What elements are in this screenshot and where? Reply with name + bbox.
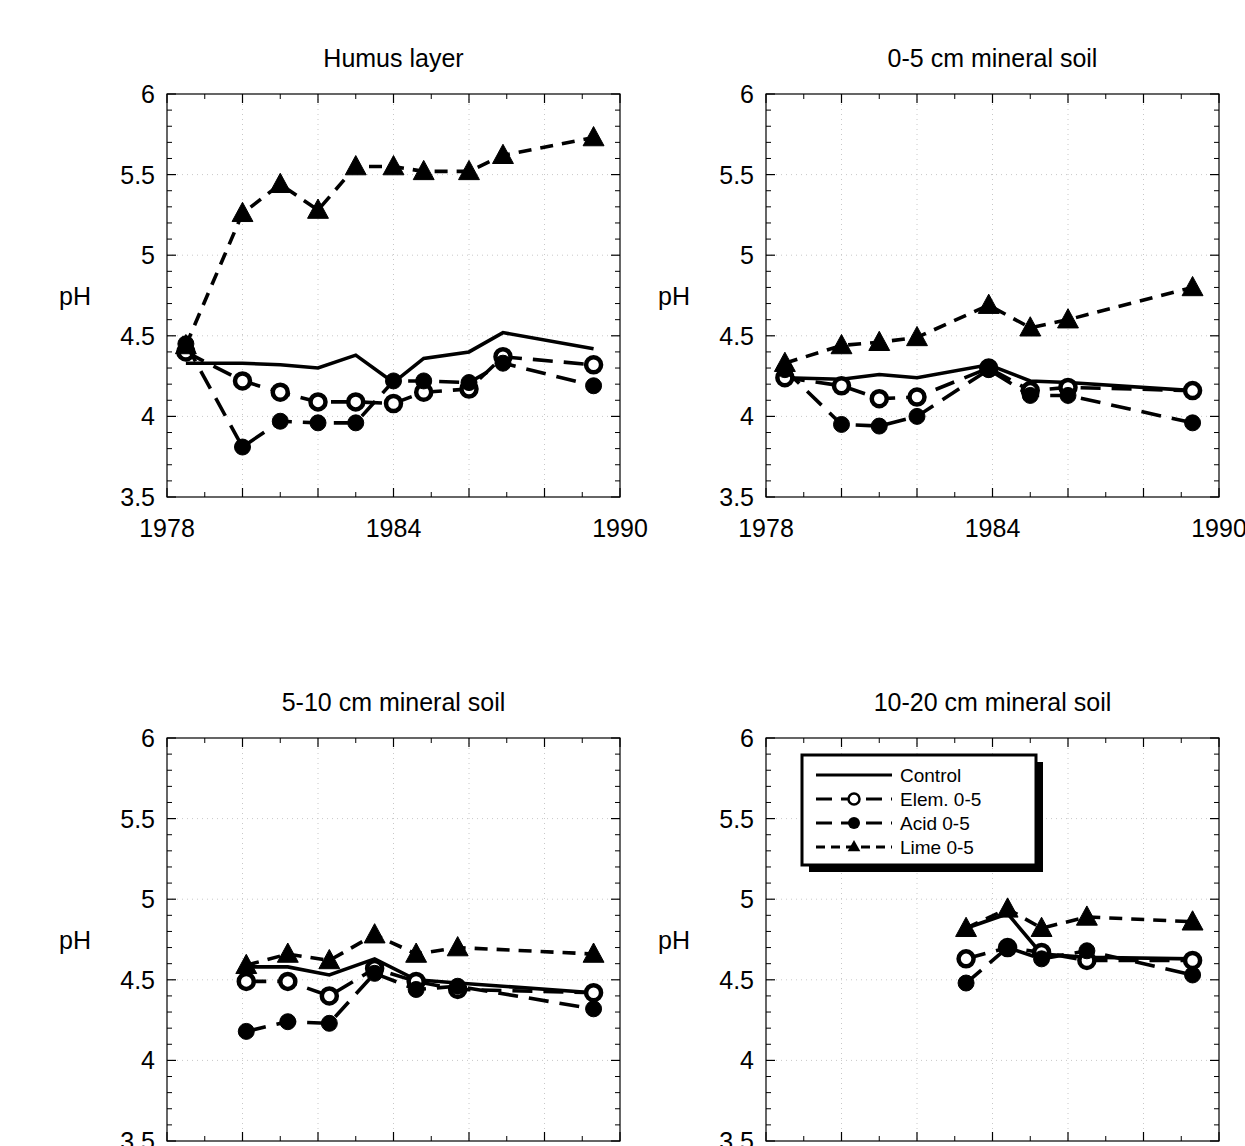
y-axis-title: pH xyxy=(658,282,690,310)
data-point-filled-triangle xyxy=(1058,309,1079,328)
plot-area: 3.544.555.56pH197819841990 xyxy=(0,0,1245,1146)
series-line-elem-0-5 xyxy=(246,969,593,996)
data-point-filled-triangle xyxy=(406,943,427,962)
data-point-filled-triangle xyxy=(270,173,291,192)
data-point-open-circle xyxy=(1185,953,1200,968)
data-point-filled-circle xyxy=(871,418,887,434)
y-tick-label: 4.5 xyxy=(719,322,754,350)
y-tick-label: 6 xyxy=(141,80,155,108)
panel-title: 5-10 cm mineral soil xyxy=(167,688,620,717)
data-point-filled-circle xyxy=(1060,387,1076,403)
axis-ticks xyxy=(766,94,1219,497)
data-point-filled-circle xyxy=(461,375,477,391)
data-point-filled-triangle xyxy=(364,924,385,943)
data-point-filled-triangle xyxy=(232,202,253,221)
gridlines xyxy=(167,738,620,1141)
y-tick-label: 4 xyxy=(141,1046,155,1074)
series-line-acid-0-5 xyxy=(785,370,1193,426)
data-point-filled-triangle xyxy=(907,326,928,345)
data-point-open-circle xyxy=(311,394,326,409)
data-point-open-circle xyxy=(959,951,974,966)
data-point-filled-triangle xyxy=(1182,276,1203,295)
plot-area: 3.544.555.56pH197819841990 xyxy=(0,0,1245,1146)
x-tick-label: 1978 xyxy=(139,514,195,542)
data-point-filled-triangle xyxy=(383,156,404,175)
y-tick-label: 5 xyxy=(141,885,155,913)
data-point-open-circle xyxy=(834,378,849,393)
figure-root: Humus layer3.544.555.56pH1978198419900-5… xyxy=(0,0,1245,1146)
data-point-filled-circle xyxy=(777,362,793,378)
data-point-filled-circle xyxy=(1185,415,1201,431)
chart-panel-4: 10-20 cm mineral soil3.544.555.56pHContr… xyxy=(0,0,1245,1146)
series-line-acid-0-5 xyxy=(246,973,593,1031)
data-point-filled-circle xyxy=(450,978,466,994)
legend-label: Lime 0-5 xyxy=(900,837,974,858)
x-tick-labels: 197819841990 xyxy=(738,514,1245,542)
panel-title: 10-20 cm mineral soil xyxy=(766,688,1219,717)
chart-panel-2: 0-5 cm mineral soil3.544.555.56pH1978198… xyxy=(0,0,1245,1146)
data-point-filled-circle xyxy=(1034,951,1050,967)
series-line-elem-0-5 xyxy=(186,352,594,404)
legend-label: Acid 0-5 xyxy=(900,813,970,834)
data-point-open-circle xyxy=(910,390,925,405)
y-tick-label: 4.5 xyxy=(120,322,155,350)
data-point-filled-circle xyxy=(416,373,432,389)
y-tick-labels: 3.544.555.56 xyxy=(719,80,754,511)
axis-ticks xyxy=(766,738,1219,1141)
legend-marker-open-circle xyxy=(849,794,860,805)
series-line-lime-0-5 xyxy=(186,138,594,346)
series-line-lime-0-5 xyxy=(785,287,1193,363)
y-tick-label: 6 xyxy=(740,80,754,108)
data-point-filled-triangle xyxy=(1020,317,1041,336)
series-line-control xyxy=(966,914,1192,959)
data-point-open-circle xyxy=(586,357,601,372)
data-point-filled-circle xyxy=(1000,940,1016,956)
series-line-acid-0-5 xyxy=(186,344,594,447)
data-point-filled-triangle xyxy=(1076,906,1097,925)
data-point-filled-circle xyxy=(321,1015,337,1031)
data-point-filled-circle xyxy=(1079,943,1095,959)
data-point-open-circle xyxy=(450,982,465,997)
panel-title: Humus layer xyxy=(167,44,620,73)
data-point-filled-circle xyxy=(408,981,424,997)
panel-title: 0-5 cm mineral soil xyxy=(766,44,1219,73)
data-point-filled-circle xyxy=(367,965,383,981)
y-tick-label: 4.5 xyxy=(719,966,754,994)
series-line-acid-0-5 xyxy=(966,948,1192,983)
series-line-control xyxy=(246,959,593,993)
data-point-open-circle xyxy=(235,373,250,388)
gridlines xyxy=(167,94,620,497)
data-point-open-circle xyxy=(322,988,337,1003)
series-group xyxy=(956,898,1203,991)
gridlines xyxy=(766,738,1219,1141)
legend: ControlElem. 0-5Acid 0-5Lime 0-5 xyxy=(802,755,1043,872)
data-point-open-circle xyxy=(1000,940,1015,955)
y-axis-title: pH xyxy=(658,926,690,954)
data-point-open-circle xyxy=(1061,380,1076,395)
data-point-filled-triangle xyxy=(277,943,298,962)
data-point-filled-triangle xyxy=(493,144,514,163)
chart-panel-3: 5-10 cm mineral soil3.544.555.56pH xyxy=(0,0,1245,1146)
data-point-filled-circle xyxy=(348,415,364,431)
y-axis-title: pH xyxy=(59,926,91,954)
x-tick-label: 1990 xyxy=(1191,514,1245,542)
plot-frame xyxy=(766,738,1219,1141)
y-tick-label: 3.5 xyxy=(719,483,754,511)
legend-marker-filled-circle xyxy=(848,817,860,829)
data-point-filled-circle xyxy=(586,378,602,394)
legend-label: Control xyxy=(900,765,961,786)
data-point-filled-circle xyxy=(958,975,974,991)
data-point-filled-circle xyxy=(981,362,997,378)
y-tick-labels: 3.544.555.56 xyxy=(719,724,754,1146)
y-tick-labels: 3.544.555.56 xyxy=(120,80,155,511)
gridlines xyxy=(766,94,1219,497)
data-point-open-circle xyxy=(178,344,193,359)
data-point-filled-circle xyxy=(280,1014,296,1030)
data-point-open-circle xyxy=(1034,945,1049,960)
data-point-filled-circle xyxy=(834,416,850,432)
x-tick-label: 1978 xyxy=(738,514,794,542)
y-tick-label: 4 xyxy=(740,1046,754,1074)
series-line-control xyxy=(186,333,594,383)
data-point-filled-triangle xyxy=(869,331,890,350)
x-tick-label: 1984 xyxy=(965,514,1021,542)
